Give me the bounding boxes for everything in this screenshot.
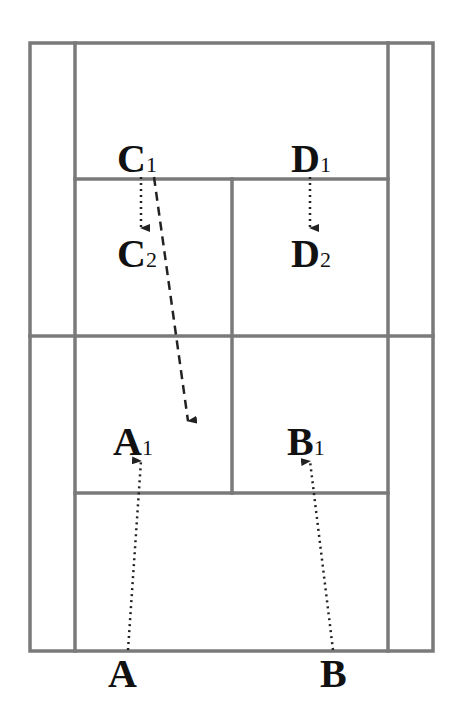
label-b: B [320, 651, 347, 696]
label-a: A [108, 651, 137, 696]
label-d2: D2 [291, 231, 331, 276]
label-d1: D1 [291, 136, 331, 181]
arrow-b-to-b1 [310, 461, 333, 650]
badminton-court-diagram: C1D1C2D2A1B1AB [0, 0, 457, 712]
arrow-a-to-a1 [128, 461, 141, 650]
label-b1: B1 [287, 419, 325, 464]
label-c2: C2 [117, 231, 157, 276]
label-a1: A1 [113, 419, 153, 464]
arrow-c1-to-a1-area [154, 177, 188, 421]
label-c1: C1 [117, 136, 157, 181]
court-lines [30, 43, 433, 651]
